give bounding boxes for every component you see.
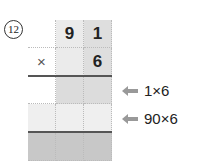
hint-1: 1×6 bbox=[122, 82, 169, 99]
answer-cell-r5-c3[interactable] bbox=[84, 133, 112, 161]
problem-number: 12 bbox=[4, 20, 23, 39]
answer-cell-r5-c1[interactable] bbox=[28, 133, 56, 161]
answer-cell-r4-c2[interactable] bbox=[56, 104, 84, 132]
hint-label: 1×6 bbox=[144, 82, 169, 99]
cell-r1-c1 bbox=[28, 20, 56, 48]
hint-label: 90×6 bbox=[144, 110, 178, 127]
answer-cell-r5-c2[interactable] bbox=[56, 133, 84, 161]
cell-r2-c1-operator: × bbox=[28, 48, 56, 76]
answer-cell-r3-c2[interactable] bbox=[56, 77, 84, 104]
cell-r1-c2: 9 bbox=[56, 20, 84, 48]
arrow-tail bbox=[128, 89, 138, 93]
answer-cell-r4-c3[interactable] bbox=[84, 104, 112, 132]
cell-r1-c3: 1 bbox=[84, 20, 112, 48]
cell-r2-c2 bbox=[56, 48, 84, 76]
cell-r2-c3: 6 bbox=[84, 48, 112, 76]
answer-cell-r4-c1[interactable] bbox=[28, 104, 56, 132]
answer-cell-r3-c1[interactable] bbox=[28, 77, 56, 104]
hint-2: 90×6 bbox=[122, 110, 178, 127]
answer-cell-r3-c3[interactable] bbox=[84, 77, 112, 104]
arrow-tail bbox=[128, 117, 138, 121]
